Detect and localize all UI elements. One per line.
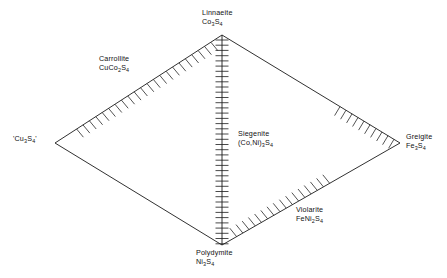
hatch-upper-right-partial xyxy=(335,107,394,149)
vertex-label-greigite: Greigite Fe3S4 xyxy=(406,132,432,151)
edge-name-violarite: Violarite xyxy=(296,205,323,214)
vertex-formula-linnaeite: Co3S4 xyxy=(202,17,233,27)
edge-label-siegenite: Siegenite (Co,Ni)3S4 xyxy=(238,129,273,148)
edge-name-carrollite: Carrollite xyxy=(99,54,129,63)
siegenite-join-line xyxy=(216,35,229,245)
vertex-name-greigite: Greigite xyxy=(406,132,432,141)
vertex-name-linnaeite: Linnaeite xyxy=(202,8,233,17)
edge-left-top xyxy=(55,35,222,143)
edge-name-siegenite: Siegenite xyxy=(238,129,269,138)
vertex-label-linnaeite: Linnaeite Co3S4 xyxy=(202,8,233,27)
edge-bottom-left xyxy=(55,143,222,245)
vertex-name-polydymite: Polydymite xyxy=(196,248,233,257)
edge-label-carrollite: Carrollite CuCo2S4 xyxy=(99,54,129,73)
edge-formula-violarite: FeNi2S4 xyxy=(296,214,323,224)
diagram-canvas xyxy=(0,0,447,278)
edge-formula-siegenite: (Co,Ni)3S4 xyxy=(238,138,273,148)
vertex-formula-polydymite: Ni3S4 xyxy=(196,257,233,267)
edge-top-right xyxy=(222,35,400,143)
vertex-label-cu3s4: 'Cu3S4' xyxy=(13,134,37,144)
edge-label-violarite: Violarite FeNi2S4 xyxy=(296,205,323,224)
hatch-upper-left xyxy=(77,42,218,137)
phase-diagram-figure: Linnaeite Co3S4 'Cu3S4' Greigite Fe3S4 P… xyxy=(0,0,447,278)
edge-formula-carrollite: CuCo2S4 xyxy=(99,63,129,73)
vertex-formula-greigite: Fe3S4 xyxy=(406,141,432,151)
vertex-label-polydymite: Polydymite Ni3S4 xyxy=(196,248,233,267)
vertex-formula-cu3s4: 'Cu3S4' xyxy=(13,134,37,144)
